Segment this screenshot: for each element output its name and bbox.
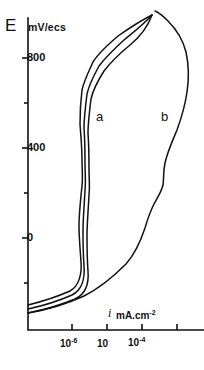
y-axis-symbol: E: [5, 17, 16, 34]
x-tick-label-1e-6: 10-6: [60, 337, 77, 349]
x-tick-mantissa-0: 10: [60, 338, 71, 349]
y-tick-label-0: 0: [27, 232, 33, 243]
x-tick-mantissa-1: 10: [97, 338, 108, 349]
curve-label-b: b: [161, 110, 168, 123]
y-axis-unit: mV/ecs: [28, 22, 66, 33]
x-axis-symbol: i: [108, 307, 111, 319]
y-tick-label-400: 400: [27, 142, 45, 153]
y-tick-label-800: 800: [27, 52, 45, 63]
x-tick-label-10: 10: [97, 337, 108, 349]
x-tick-label-1e-4: 10-4: [128, 336, 145, 348]
x-tick-mantissa-2: 10: [128, 337, 139, 348]
x-tick-exponent-2: -4: [139, 336, 145, 343]
x-axis-unit-exponent: -2: [149, 309, 155, 316]
x-axis-unit: mA.cm-2: [116, 309, 156, 321]
x-axis-unit-base: mA.cm: [116, 310, 149, 321]
curve-label-a: a: [96, 110, 103, 123]
x-tick-exponent-0: -6: [71, 337, 77, 344]
